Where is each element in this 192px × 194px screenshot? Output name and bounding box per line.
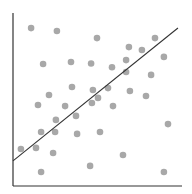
data-point — [18, 146, 25, 153]
data-point — [74, 131, 81, 138]
data-point — [38, 169, 45, 176]
data-point — [123, 57, 130, 64]
data-point — [54, 28, 61, 35]
data-point — [62, 103, 69, 110]
data-point — [40, 61, 47, 68]
data-point — [127, 88, 134, 95]
data-point — [50, 150, 57, 157]
data-point — [53, 117, 60, 124]
data-point — [143, 93, 150, 100]
data-point — [33, 145, 40, 152]
data-point — [28, 25, 35, 32]
data-point — [161, 54, 168, 61]
data-point — [139, 47, 146, 54]
data-point — [35, 102, 42, 109]
data-point — [89, 100, 96, 107]
data-point — [110, 103, 117, 110]
data-point — [88, 60, 95, 67]
trend-line — [13, 28, 178, 161]
data-point — [38, 129, 45, 136]
data-point — [148, 72, 155, 79]
scatter-chart — [0, 0, 192, 194]
data-point — [120, 152, 127, 159]
data-point — [68, 59, 75, 66]
data-point — [90, 87, 97, 94]
data-points — [18, 25, 172, 176]
data-point — [52, 129, 59, 136]
data-point — [46, 92, 53, 99]
data-point — [152, 35, 159, 42]
data-point — [95, 95, 102, 102]
data-point — [161, 169, 168, 176]
data-point — [87, 163, 94, 170]
data-point — [73, 113, 80, 120]
data-point — [165, 121, 172, 128]
data-point — [109, 64, 116, 71]
data-point — [94, 35, 101, 42]
data-point — [97, 129, 104, 136]
data-point — [69, 84, 76, 91]
data-point — [126, 44, 133, 51]
